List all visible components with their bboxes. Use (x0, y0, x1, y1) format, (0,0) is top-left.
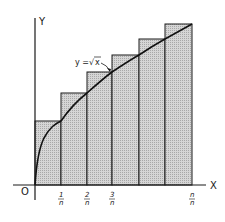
svg-text:1: 1 (59, 191, 63, 199)
svg-text:n: n (190, 199, 194, 207)
curve-label: y = √ x (75, 57, 101, 67)
svg-text:n: n (110, 199, 114, 207)
svg-text:n: n (190, 191, 194, 199)
arrowhead-icon (107, 68, 111, 72)
svg-text:n: n (85, 199, 89, 207)
rectangle-5 (139, 39, 165, 185)
tick-label-1: 1 n (58, 191, 64, 207)
curve-label-lhs: y = (75, 58, 89, 67)
svg-text:n: n (59, 199, 63, 207)
rectangle-4 (112, 55, 139, 185)
tick-label-3: 3 n (109, 191, 115, 207)
svg-text:3: 3 (110, 191, 114, 199)
curve-label-radicand: x (95, 58, 100, 67)
tick-label-2: 2 n (84, 191, 90, 207)
svg-text:2: 2 (85, 191, 90, 199)
x-axis-label: X (210, 180, 217, 191)
riemann-sum-diagram: Y X O y = √ x 1 n 2 n 3 n n n (0, 0, 225, 222)
origin-label: O (21, 186, 29, 197)
rectangle-2 (61, 93, 87, 185)
y-axis-label: Y (38, 16, 46, 27)
rectangle-6 (165, 24, 192, 185)
tick-label-n: n n (189, 191, 195, 207)
riemann-rectangles (35, 24, 192, 185)
